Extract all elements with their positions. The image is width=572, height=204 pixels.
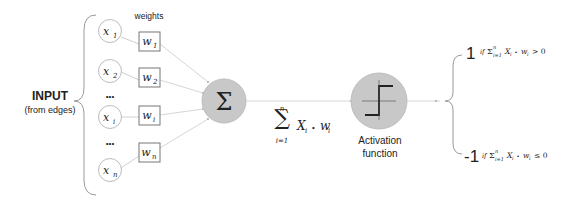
svg-text:n: n	[495, 148, 498, 154]
svg-text:x: x	[103, 164, 110, 177]
ellipsis-1: •••	[106, 92, 115, 101]
svg-text:-1: -1	[464, 147, 479, 166]
svg-text:i=1: i=1	[276, 137, 289, 145]
svg-text:x: x	[103, 25, 110, 38]
input-title: INPUT	[32, 89, 69, 103]
input-node-1: x 1	[99, 20, 122, 43]
svg-text:≤ 0: ≤ 0	[534, 151, 548, 160]
weight-box-1: w 1	[139, 32, 160, 51]
activation-node	[351, 73, 407, 129]
svg-text:2: 2	[152, 78, 158, 86]
svg-text:> 0: > 0	[532, 47, 546, 56]
svg-text:w: w	[142, 35, 152, 48]
svg-text:n: n	[493, 44, 496, 50]
output-positive: 1 if Σ n i=1 X i • w i > 0	[466, 44, 546, 63]
sum-node: Σ	[202, 79, 246, 123]
svg-text:x: x	[103, 111, 110, 124]
svg-text:n: n	[280, 105, 285, 113]
svg-text:•: •	[515, 49, 517, 55]
output-negative: -1 if Σ n i=1 X i • w i ≤ 0	[464, 147, 548, 166]
weight-sum-connections	[160, 44, 208, 148]
arrow-dot	[435, 100, 437, 102]
svg-text:1: 1	[113, 32, 117, 40]
svg-text:1: 1	[466, 44, 475, 63]
input-subtitle: (from edges)	[24, 105, 75, 115]
svg-text:w: w	[142, 71, 152, 84]
svg-text:i=1: i=1	[495, 156, 504, 162]
weight-box-i: w i	[139, 106, 160, 125]
svg-text:i=1: i=1	[493, 52, 502, 58]
svg-text:i: i	[527, 51, 529, 57]
svg-text:x: x	[103, 65, 110, 78]
weight-box-2: w 2	[139, 68, 160, 87]
svg-text:i: i	[328, 127, 330, 135]
svg-text:2: 2	[112, 72, 118, 80]
svg-text:if: if	[480, 48, 486, 56]
activation-label-line1: Activation	[358, 135, 401, 146]
svg-text:if: if	[482, 152, 488, 160]
left-brace-icon	[74, 15, 96, 195]
svg-text:i: i	[529, 155, 531, 161]
sigma-icon: Σ	[216, 88, 233, 116]
input-node-2: x 2	[99, 60, 122, 83]
perceptron-diagram: INPUT (from edges) weights x 1 x 2 ••• x	[0, 0, 572, 204]
weights-header: weights	[134, 11, 164, 21]
input-weight-connections	[121, 37, 139, 168]
svg-text:w: w	[142, 109, 152, 122]
svg-text:n: n	[152, 153, 157, 161]
svg-text:•: •	[517, 153, 519, 159]
right-brace-icon	[445, 55, 462, 154]
svg-text:i: i	[153, 116, 155, 124]
ellipsis-2: •••	[106, 139, 115, 148]
svg-text:n: n	[113, 171, 118, 179]
input-node-i: x i	[99, 106, 122, 129]
svg-text:i: i	[512, 155, 514, 161]
svg-text:i: i	[305, 127, 307, 135]
svg-text:i: i	[510, 51, 512, 57]
sum-formula: ∑ n i=1 X i • w i	[274, 105, 331, 145]
input-node-n: x n	[99, 159, 122, 182]
svg-text:•: •	[312, 123, 315, 132]
svg-text:w: w	[141, 146, 151, 159]
weight-box-n: w n	[139, 143, 160, 162]
svg-text:1: 1	[153, 42, 157, 50]
svg-text:i: i	[113, 118, 115, 126]
activation-label-line2: function	[362, 148, 397, 159]
